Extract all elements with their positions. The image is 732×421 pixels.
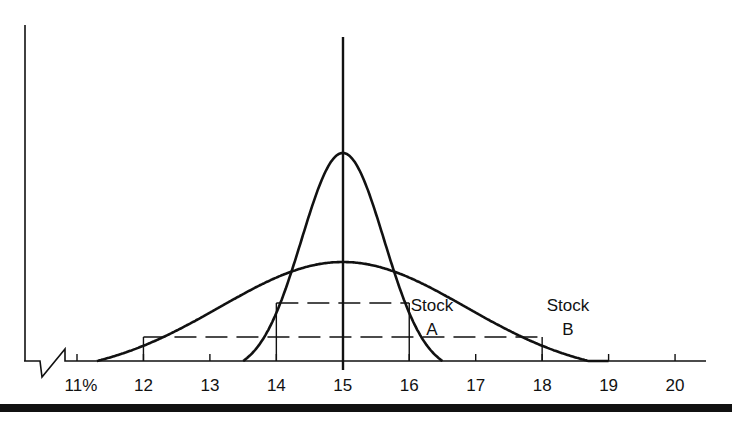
x-tick-label: 11% bbox=[65, 376, 98, 395]
x-tick-label: 13 bbox=[200, 376, 219, 395]
bottom-rule bbox=[0, 404, 732, 412]
series-labels: StockAStockB bbox=[411, 296, 590, 339]
series-label: A bbox=[426, 320, 438, 339]
x-tick-label: 18 bbox=[533, 376, 552, 395]
x-tick-label: 15 bbox=[333, 376, 352, 395]
axes bbox=[24, 25, 706, 377]
curve-stock-b bbox=[97, 262, 609, 361]
series-label: Stock bbox=[547, 296, 590, 315]
distribution-curves bbox=[97, 153, 609, 361]
x-tick-label: 20 bbox=[666, 376, 685, 395]
x-tick-label: 12 bbox=[134, 376, 153, 395]
distribution-chart: 11%121314151617181920 StockAStockB bbox=[0, 0, 732, 421]
x-tick-label: 19 bbox=[599, 376, 618, 395]
series-label: Stock bbox=[411, 296, 454, 315]
x-axis-tick-labels: 11%121314151617181920 bbox=[65, 376, 685, 395]
x-tick-label: 16 bbox=[400, 376, 419, 395]
x-tick-label: 14 bbox=[267, 376, 286, 395]
series-label: B bbox=[562, 320, 573, 339]
x-tick-label: 17 bbox=[466, 376, 485, 395]
